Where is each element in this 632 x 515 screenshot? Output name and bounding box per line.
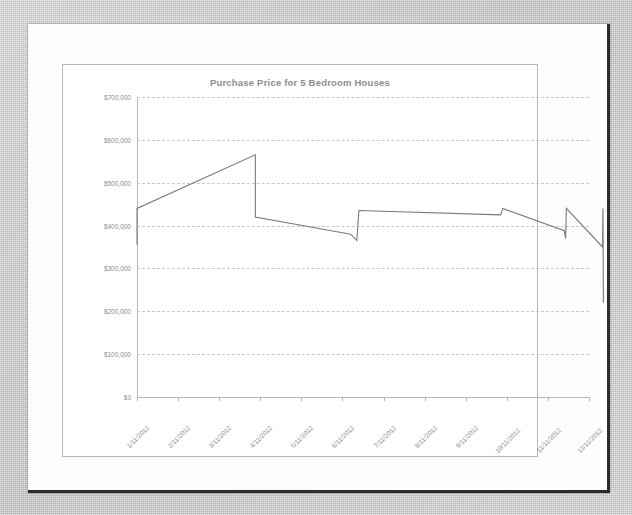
y-axis-tick-label: $700,000: [104, 94, 131, 101]
y-axis-tick-label: $200,000: [104, 308, 131, 315]
document-page: Purchase Price for 5 Bedroom Houses $0$1…: [28, 24, 610, 493]
x-axis-tick-label: 7/11/2012: [372, 424, 397, 449]
y-axis-tick-label: $600,000: [104, 136, 131, 143]
chart-title: Purchase Price for 5 Bedroom Houses: [63, 77, 537, 88]
x-axis-tick-mark: [589, 397, 590, 401]
x-axis-tick-mark: [137, 397, 138, 401]
y-axis-tick-label: $100,000: [104, 351, 131, 358]
x-axis-tick-label: 9/11/2012: [454, 424, 479, 449]
x-axis-tick-mark: [466, 397, 467, 401]
y-axis-tick-label: $300,000: [104, 265, 131, 272]
x-axis-tick-label: 11/11/2012: [535, 426, 562, 453]
x-axis-tick-label: 3/11/2012: [207, 424, 232, 449]
y-axis-tick-label: $400,000: [104, 222, 131, 229]
x-axis-tick-label: 5/11/2012: [290, 424, 315, 449]
gridline: [137, 397, 589, 398]
series-plot: [137, 97, 589, 397]
x-axis-tick-mark: [425, 397, 426, 401]
y-axis-tick-label: $0: [124, 394, 131, 401]
x-axis-tick-label: 1/11/2012: [125, 424, 150, 449]
chart-container: Purchase Price for 5 Bedroom Houses $0$1…: [62, 64, 538, 457]
x-axis-tick-label: 4/11/2012: [248, 424, 273, 449]
x-axis-tick-mark: [301, 397, 302, 401]
x-axis-tick-label: 12/11/2012: [576, 427, 604, 455]
x-axis-tick-mark: [548, 397, 549, 401]
x-axis-tick-mark: [507, 397, 508, 401]
y-axis-tick-label: $500,000: [104, 179, 131, 186]
plot-area: $0$100,000$200,000$300,000$400,000$500,0…: [137, 97, 589, 397]
x-axis-tick-mark: [178, 397, 179, 401]
series-line-purchase-price: [137, 155, 603, 303]
x-axis-tick-mark: [219, 397, 220, 401]
x-axis-tick-label: 8/11/2012: [413, 424, 438, 449]
x-axis-tick-label: 10/11/2012: [494, 427, 522, 455]
x-axis-tick-mark: [260, 397, 261, 401]
x-axis-tick-label: 6/11/2012: [331, 424, 356, 449]
x-axis-tick-mark: [342, 397, 343, 401]
x-axis-tick-label: 2/11/2012: [166, 424, 191, 449]
x-axis-tick-mark: [384, 397, 385, 401]
